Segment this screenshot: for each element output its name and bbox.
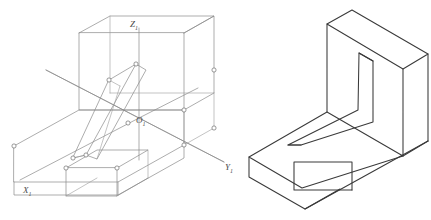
back-plate-wireframe	[79, 16, 214, 145]
solid-base-plate	[249, 112, 428, 209]
notch-right-depth-edge	[117, 178, 148, 196]
z-axis-label: Z1	[130, 19, 138, 31]
solid-back-plate-top-face	[327, 10, 428, 69]
vertex-marker	[64, 166, 68, 170]
solid-base-front-lower-edge	[305, 189, 340, 209]
back-plate-right-face	[184, 16, 214, 110]
vertex-marker	[71, 156, 75, 160]
vertex-marker	[182, 143, 186, 147]
vertex-marker	[212, 126, 216, 130]
technical-drawing-canvas: Z1 O1 X1 Y1	[0, 0, 431, 220]
rib-far-face	[86, 64, 146, 159]
solid-back-plate	[327, 10, 428, 156]
axis-labels: Z1 O1 X1 Y1	[22, 19, 233, 197]
x-axis-extension	[139, 88, 198, 118]
notch-diagonal	[66, 178, 97, 196]
origin-label: O1	[136, 115, 146, 127]
vertex-marker	[182, 108, 186, 112]
solid-rib-far-edge	[359, 53, 373, 61]
rib-near-face	[73, 64, 136, 158]
solid-base-notch	[294, 162, 352, 190]
solid-back-plate-right-face	[403, 54, 428, 156]
solid-base-top-face	[249, 112, 403, 188]
vertex-markers	[12, 62, 216, 170]
vertex-marker	[115, 166, 119, 170]
vertex-marker	[134, 62, 138, 66]
vertex-marker	[12, 144, 16, 148]
coordinate-axes	[20, 28, 224, 180]
vertex-marker	[107, 78, 111, 82]
x-axis-line	[20, 118, 139, 180]
base-top-face	[14, 110, 184, 182]
right-solid-view	[249, 10, 428, 209]
vertex-marker	[126, 121, 130, 125]
back-plate-top-face	[79, 16, 214, 33]
vertex-marker	[212, 68, 216, 72]
solid-base-outline	[249, 141, 428, 209]
y-axis-label: Y1	[225, 162, 233, 174]
vertex-marker	[84, 153, 88, 157]
left-wireframe-view: Z1 O1 X1 Y1	[12, 16, 233, 197]
base-rear-depth-edge	[184, 128, 214, 145]
solid-notch-face	[294, 162, 352, 190]
rib-edge-connector-bottom	[97, 86, 120, 159]
solid-back-plate-front-face	[327, 24, 403, 156]
figure-root: Z1 O1 X1 Y1	[0, 0, 431, 220]
x-axis-label: X1	[22, 185, 32, 197]
notch-top-face	[66, 150, 148, 168]
auxiliary-axis-line	[46, 70, 224, 162]
